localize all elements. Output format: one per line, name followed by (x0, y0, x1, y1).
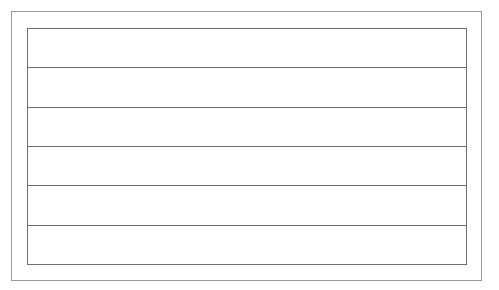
table-row (28, 108, 466, 147)
table-row (28, 226, 466, 264)
table-row (28, 147, 466, 186)
lined-table (27, 28, 467, 265)
table-row (28, 68, 466, 107)
table-row (28, 186, 466, 225)
table-row (28, 29, 466, 68)
